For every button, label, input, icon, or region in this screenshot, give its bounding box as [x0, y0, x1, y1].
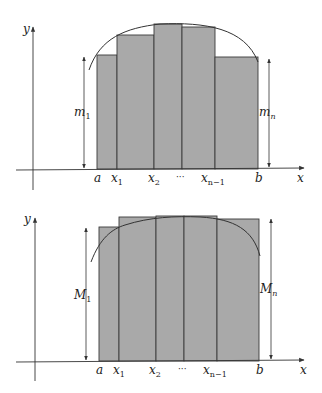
lower-sum-bars — [97, 24, 258, 169]
bar-n — [215, 57, 258, 169]
tick-xn-1: xn−1 — [201, 171, 225, 187]
tick-ellipsis: ··· — [176, 172, 185, 182]
M1-label: M1 — [73, 288, 91, 304]
m1-label: m1 — [74, 105, 90, 121]
lower-sum-diagram: y x m1 mn a x1 x2 ··· xn−1 b — [16, 22, 304, 190]
bar-4 — [182, 27, 215, 169]
tick-b: b — [256, 363, 264, 377]
bar-3 — [156, 216, 184, 361]
y-axis-label: y — [22, 22, 30, 36]
mn-label: mn — [259, 105, 276, 121]
bar-2 — [119, 217, 156, 361]
tick-a: a — [96, 363, 103, 377]
tick-xn-1: xn−1 — [203, 363, 227, 379]
tick-x1: x1 — [111, 171, 123, 187]
upper-sum-bars — [99, 216, 259, 361]
riemann-sum-figure: y x m1 mn a x1 x2 ··· xn−1 b y x M1 Mn a… — [0, 0, 322, 393]
tick-x2: x2 — [149, 363, 161, 379]
upper-sum-diagram: y x M1 Mn a x1 x2 ··· xn−1 b — [16, 212, 307, 381]
Mn-label: Mn — [259, 282, 277, 298]
x-axis-label: x — [300, 363, 307, 377]
tick-x2: x2 — [148, 171, 160, 187]
tick-x1: x1 — [113, 363, 125, 379]
tick-a: a — [94, 171, 101, 185]
tick-b: b — [255, 171, 263, 185]
tick-ellipsis: ··· — [178, 364, 187, 374]
bar-1 — [99, 227, 119, 361]
bar-2 — [117, 35, 154, 169]
x-axis-label: x — [297, 171, 304, 185]
bar-1 — [97, 55, 117, 169]
bar-3 — [154, 24, 182, 169]
y-axis-label: y — [23, 212, 31, 226]
bar-4 — [184, 216, 217, 361]
